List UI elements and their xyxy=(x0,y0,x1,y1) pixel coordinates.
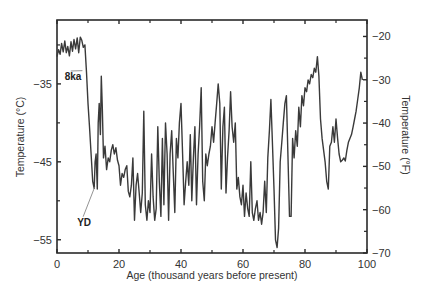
y-axis-right-title: Temperature (°F) xyxy=(400,95,412,174)
y-axis-left-title: Temperature (°C) xyxy=(14,97,26,178)
x-tick-label: 0 xyxy=(54,258,60,270)
temperature-chart: 020406080100 −35−45−55 −20−30−40−50−60−7… xyxy=(0,0,426,299)
y-tick-label: −35 xyxy=(33,78,52,90)
annotation-label-8ka: 8ka xyxy=(65,71,82,82)
x-tick-label: 80 xyxy=(299,258,311,270)
annotation-label-yd: YD xyxy=(77,217,91,228)
y-right-tick-label: −30 xyxy=(372,74,391,86)
x-tick-label: 100 xyxy=(358,258,376,270)
x-axis-title: Age (thousand years before present) xyxy=(126,269,297,281)
y-right-tick-label: −60 xyxy=(372,204,391,216)
y-tick-label: −45 xyxy=(33,156,52,168)
x-tick-label: 20 xyxy=(113,258,125,270)
y-tick-label: −55 xyxy=(33,234,52,246)
y-right-tick-label: −20 xyxy=(372,30,391,42)
y-right-tick-label: −70 xyxy=(372,247,391,259)
x-axis: 020406080100 xyxy=(54,20,376,270)
y-right-tick-label: −50 xyxy=(372,160,391,172)
plot-area xyxy=(57,20,367,253)
y-right-tick-label: −40 xyxy=(372,117,391,129)
annotation-leader-line xyxy=(83,187,95,217)
temperature-series-line xyxy=(57,37,362,247)
